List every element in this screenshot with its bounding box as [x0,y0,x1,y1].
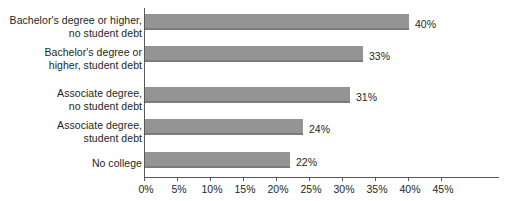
bar-bachelors-no-debt [145,14,409,30]
x-axis-tick-label: 45% [423,183,463,195]
bar-value-label: 33% [369,50,390,62]
bar-associate-no-debt [145,87,350,103]
category-label: No college [0,157,142,170]
category-label: Associate degree, no student debt [0,87,142,112]
category-label: Associate degree, student debt [0,119,142,144]
x-axis-tick [210,177,211,181]
bar-associate-with-debt [145,119,303,135]
x-axis-tick [309,177,310,181]
x-axis-tick [375,177,376,181]
x-axis-tick [342,177,343,181]
x-axis-tick [441,177,442,181]
x-axis-tick [276,177,277,181]
bar-value-label: 31% [356,91,377,103]
x-axis-tick [177,177,178,181]
bar-bachelors-with-debt [145,46,363,62]
y-axis-line [144,8,145,177]
x-axis-tick [144,177,145,181]
horizontal-bar-chart: Bachelor's degree or higher, no student … [0,0,521,201]
bar-value-label: 24% [309,123,330,135]
category-label: Bachelor's degree or higher, no student … [0,14,142,39]
bar-no-college [145,152,290,168]
x-axis-tick [243,177,244,181]
bar-value-label: 40% [415,18,436,30]
x-axis-line [144,177,499,178]
category-label: Bachelor's degree or higher, student deb… [0,46,142,71]
x-axis-tick [408,177,409,181]
bar-value-label: 22% [296,156,317,168]
